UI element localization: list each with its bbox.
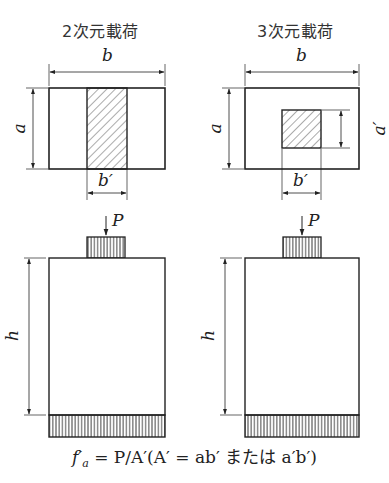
label-a-prime-3d: a′ bbox=[371, 122, 388, 136]
label-b-2d: b bbox=[102, 47, 113, 64]
formula-lhs: f′ bbox=[72, 447, 82, 467]
elevation-2d bbox=[24, 216, 165, 437]
plan-2d bbox=[26, 64, 165, 200]
label-h-3d: h bbox=[200, 330, 217, 341]
formula-rhs: = P/A′(A′ = ab′ または a′b′) bbox=[89, 447, 317, 467]
label-a-3d: a bbox=[207, 123, 224, 133]
label-load-p-3d: P bbox=[308, 212, 319, 229]
label-a-2d: a bbox=[11, 123, 28, 133]
label-load-p-2d: P bbox=[112, 212, 123, 229]
elevation-3d bbox=[220, 216, 359, 437]
plan-3d bbox=[222, 64, 359, 200]
label-b-prime-3d: b′ bbox=[293, 172, 308, 189]
label-b-3d: b bbox=[296, 47, 307, 64]
label-h-2d: h bbox=[4, 330, 21, 341]
diagram-canvas bbox=[0, 0, 389, 483]
bearing-stress-formula: f′a = P/A′(A′ = ab′ または a′b′) bbox=[0, 443, 389, 470]
label-b-prime-2d: b′ bbox=[98, 172, 113, 189]
